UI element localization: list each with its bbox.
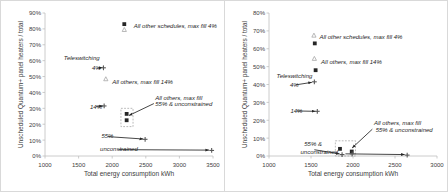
data-point-square xyxy=(125,118,129,122)
x-tick-label: 3000 xyxy=(430,162,444,168)
chart-annotation: Teleswitching xyxy=(64,55,100,61)
y-tick-label: 40% xyxy=(253,82,266,88)
chart-annotation: All other schedules, max fill 4% xyxy=(318,34,403,40)
y-tick-label: 60% xyxy=(29,58,42,64)
chart-panel-left: 0%10%20%30%40%50%60%70%80%90%10001500200… xyxy=(0,0,224,192)
data-point-plus xyxy=(102,104,107,109)
data-point-plus xyxy=(101,65,106,70)
y-tick-label: 30% xyxy=(253,100,266,106)
x-tick-label: 1500 xyxy=(304,162,318,168)
x-tick-label: 2000 xyxy=(346,162,360,168)
data-point-triangle xyxy=(312,56,316,60)
data-point-square xyxy=(122,22,126,26)
chart-panel-right: 0%10%20%30%40%50%60%70%80%10001500200025… xyxy=(224,0,448,192)
data-point-square xyxy=(338,147,342,151)
data-point-triangle xyxy=(122,27,126,31)
y-axis-title: Unscheduled Quantum+ panel heaters / tot… xyxy=(241,21,249,148)
scatter-chart-left: 0%10%20%30%40%50%60%70%80%90%10001500200… xyxy=(1,1,225,192)
chart-annotation: All others, max fill xyxy=(373,120,422,126)
y-axis-title-group: Unscheduled Quantum+ panel heaters / tot… xyxy=(17,21,25,148)
x-tick-label: 3500 xyxy=(206,162,220,168)
y-tick-label: 40% xyxy=(29,90,42,96)
scatter-chart-right: 0%10%20%30%40%50%60%70%80%10001500200025… xyxy=(225,1,448,192)
x-tick-label: 1500 xyxy=(72,162,86,168)
y-tick-label: 20% xyxy=(253,118,266,124)
y-tick-label: 90% xyxy=(29,10,42,16)
highlight-dashed-box xyxy=(121,108,133,126)
chart-annotation: 55% xyxy=(101,133,114,139)
data-point-plus xyxy=(312,79,317,84)
data-point-square xyxy=(314,68,318,72)
data-point-plus xyxy=(405,153,410,158)
y-tick-label: 20% xyxy=(29,122,42,128)
data-point-square xyxy=(313,41,317,45)
x-tick-label: 2000 xyxy=(106,162,120,168)
x-tick-label: 1000 xyxy=(262,162,276,168)
x-axis-title: Total energy consumption kWh xyxy=(308,170,398,178)
chart-annotation: 14% xyxy=(90,104,103,110)
data-point-triangle xyxy=(104,77,108,81)
data-point-plus xyxy=(143,137,148,142)
y-tick-label: 10% xyxy=(253,136,266,142)
x-tick-label: 2500 xyxy=(139,162,153,168)
chart-annotation: All others, max fill 14% xyxy=(111,79,173,85)
y-axis-title-group: Unscheduled Quantum+ panel heaters / tot… xyxy=(241,21,249,148)
y-tick-label: 50% xyxy=(253,64,266,70)
y-axis-title: Unscheduled Quantum+ panel heaters / tot… xyxy=(17,21,25,148)
chart-annotation: Teleswitching xyxy=(277,73,313,79)
chart-annotation: 55% & unconstrained xyxy=(376,127,434,133)
chart-annotation: 4% xyxy=(92,65,101,71)
data-point-triangle xyxy=(312,33,316,37)
chart-annotation: All others, max fill 14% xyxy=(320,59,382,65)
chart-annotation: unconstrained xyxy=(301,149,339,155)
data-point-plus xyxy=(315,109,320,114)
y-tick-label: 0% xyxy=(32,153,41,159)
y-tick-label: 70% xyxy=(29,42,42,48)
chart-annotation: 55% & xyxy=(304,141,322,147)
chart-annotation: All others, max fill xyxy=(154,95,203,101)
data-point-square xyxy=(125,112,129,116)
x-tick-label: 2500 xyxy=(388,162,402,168)
y-tick-label: 50% xyxy=(29,74,42,80)
y-tick-label: 80% xyxy=(29,26,42,32)
chart-annotation: 14% xyxy=(290,108,303,114)
annotation-arrow xyxy=(352,129,372,148)
y-tick-label: 10% xyxy=(29,138,42,144)
data-point-plus xyxy=(209,148,214,153)
y-tick-label: 80% xyxy=(253,10,266,16)
chart-annotation: All other schedules, max fill 4% xyxy=(133,23,218,29)
y-tick-label: 60% xyxy=(253,46,266,52)
chart-annotation: 55% & unconstrained xyxy=(155,101,213,107)
chart-annotation: 4% xyxy=(290,82,299,88)
figure-container: 0%10%20%30%40%50%60%70%80%90%10001500200… xyxy=(0,0,448,192)
chart-annotation: unconstrained xyxy=(100,146,138,152)
y-tick-label: 0% xyxy=(256,153,265,159)
x-tick-label: 3000 xyxy=(173,162,187,168)
x-tick-label: 1000 xyxy=(38,162,52,168)
y-tick-label: 30% xyxy=(29,106,42,112)
y-tick-label: 70% xyxy=(253,28,266,34)
x-axis-title: Total energy consumption kWh xyxy=(84,170,174,178)
